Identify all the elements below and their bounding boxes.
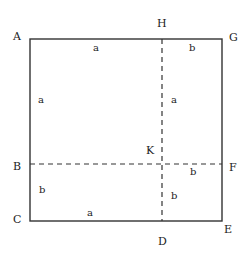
segment-label-hk: a — [171, 94, 177, 105]
vertex-labels: AHGBFCEDK — [12, 17, 238, 248]
segment-label-kf: b — [190, 166, 196, 177]
segment-label-kd: b — [171, 190, 177, 201]
segment-label-ah: a — [93, 42, 99, 53]
vertex-label-c: C — [13, 213, 21, 226]
vertex-label-a: A — [12, 30, 22, 43]
segment-label-cd: a — [87, 207, 93, 218]
vertex-label-h: H — [157, 17, 167, 30]
square-diagram: AHGBFCEDK abaabbba — [0, 0, 250, 260]
vertex-label-d: D — [158, 235, 167, 248]
segment-length-labels: abaabbba — [38, 42, 196, 218]
segment-label-hg: b — [189, 42, 195, 53]
vertex-label-e: E — [224, 223, 232, 236]
segment-label-ab: a — [38, 94, 44, 105]
vertex-label-f: F — [229, 161, 237, 174]
vertex-label-k: K — [146, 144, 155, 157]
vertex-label-g: G — [229, 31, 238, 44]
segment-label-bc: b — [39, 184, 45, 195]
vertex-label-b: B — [13, 160, 21, 173]
outer-square — [30, 39, 222, 221]
